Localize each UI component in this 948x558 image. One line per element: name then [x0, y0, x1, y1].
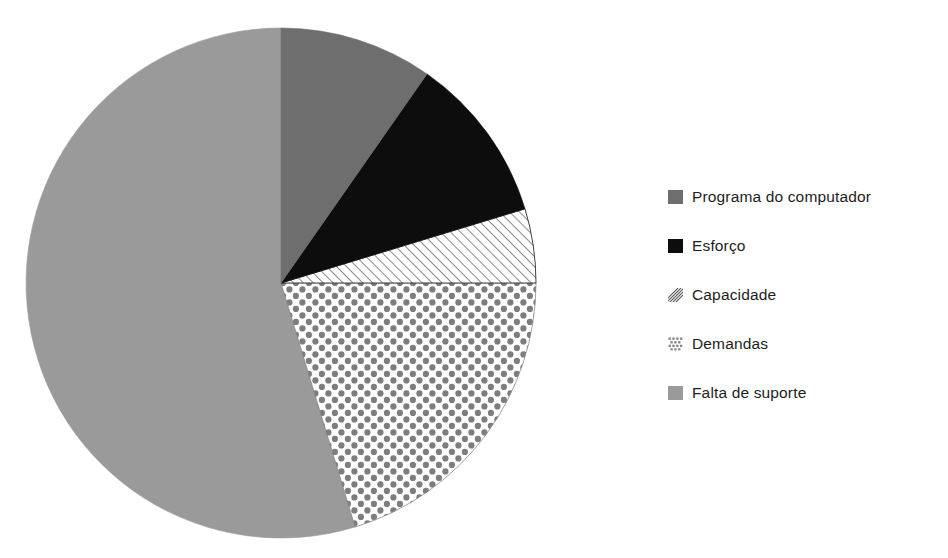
legend-label: Capacidade — [692, 287, 776, 303]
legend-item-esforco[interactable]: Esforço — [668, 221, 940, 270]
legend-item-programa-do-computador[interactable]: Programa do computador — [668, 172, 940, 221]
swatch-solid-light-gray-icon — [668, 386, 683, 400]
legend-item-capacidade[interactable]: Capacidade — [668, 270, 940, 319]
swatch-dotted-checker-icon — [668, 337, 683, 351]
legend-item-falta-de-suporte[interactable]: Falta de suporte — [668, 368, 940, 417]
legend-label: Esforço — [692, 238, 746, 254]
swatch-diagonal-hatch-icon — [668, 288, 683, 302]
legend-item-demandas[interactable]: Demandas — [668, 319, 940, 368]
pie-chart-svg — [0, 0, 600, 558]
legend-label: Falta de suporte — [692, 385, 806, 401]
swatch-solid-black-icon — [668, 239, 683, 253]
pie-chart-plot-area — [0, 0, 600, 558]
legend: Programa do computador Esforço Capacidad… — [668, 172, 940, 417]
swatch-solid-dark-gray-icon — [668, 190, 683, 204]
pie-chart-figure: Programa do computador Esforço Capacidad… — [0, 0, 948, 558]
legend-label: Demandas — [692, 336, 768, 352]
legend-label: Programa do computador — [692, 189, 871, 205]
